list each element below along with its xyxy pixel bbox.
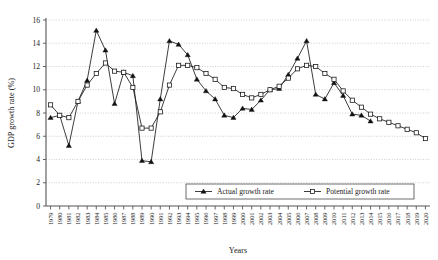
x-tick-label: 1981: [65, 213, 72, 226]
data-point-potential: [48, 103, 52, 107]
data-point-potential: [314, 64, 318, 68]
x-tick-label: 1982: [74, 213, 81, 226]
x-tick-label: 1998: [221, 213, 228, 226]
y-tick-label: 0: [36, 202, 40, 211]
data-point-potential: [213, 77, 217, 81]
data-point-actual: [167, 38, 172, 42]
data-point-potential: [277, 84, 281, 88]
series-line-potential: [51, 63, 426, 139]
y-tick-label: 12: [32, 62, 40, 71]
x-tick-label: 1999: [230, 213, 237, 226]
legend-marker-potential: [310, 189, 314, 193]
y-axis-title: GDP growth rate (%): [7, 78, 16, 148]
series-line-actual: [51, 30, 371, 161]
data-point-potential: [67, 116, 71, 120]
data-point-potential: [286, 76, 290, 80]
data-point-potential: [396, 124, 400, 128]
data-point-potential: [85, 83, 89, 87]
data-point-potential: [350, 98, 354, 102]
data-point-actual: [240, 106, 245, 110]
x-tick-label: 2010: [330, 213, 337, 226]
data-point-actual: [304, 38, 309, 42]
x-tick-label: 1988: [129, 213, 136, 226]
data-point-potential: [405, 127, 409, 131]
x-axis-title: Years: [229, 246, 247, 255]
data-point-actual: [94, 28, 99, 32]
x-tick-label: 1997: [212, 213, 219, 226]
x-tick-label: 2001: [248, 213, 255, 226]
data-point-potential: [158, 110, 162, 114]
x-tick-label: 1985: [102, 213, 109, 226]
data-point-actual: [194, 77, 199, 81]
data-point-potential: [94, 71, 98, 75]
y-tick-label: 2: [36, 178, 40, 187]
data-point-potential: [304, 63, 308, 67]
data-point-actual: [158, 97, 163, 101]
x-tick-label: 1980: [56, 213, 63, 226]
data-point-potential: [186, 63, 190, 67]
data-point-potential: [268, 88, 272, 92]
y-tick-label: 16: [32, 16, 40, 25]
data-point-actual: [313, 92, 318, 96]
data-point-potential: [131, 85, 135, 89]
y-tick-label: 8: [36, 109, 40, 118]
x-tick-label: 2020: [422, 213, 429, 226]
data-point-potential: [76, 99, 80, 103]
data-point-potential: [140, 126, 144, 130]
data-point-potential: [204, 71, 208, 75]
x-tick-label: 2008: [312, 213, 319, 226]
data-point-potential: [240, 92, 244, 96]
data-point-potential: [122, 70, 126, 74]
data-point-potential: [250, 96, 254, 100]
x-tick-label: 1984: [93, 212, 100, 225]
x-tick-label: 1991: [157, 213, 164, 226]
data-point-potential: [167, 83, 171, 87]
x-tick-label: 2009: [321, 213, 328, 226]
data-point-actual: [368, 119, 373, 123]
data-point-potential: [58, 113, 62, 117]
data-point-potential: [176, 63, 180, 67]
data-point-potential: [222, 85, 226, 89]
data-point-potential: [368, 112, 372, 116]
data-point-actual: [322, 97, 327, 101]
x-tick-label: 2018: [404, 213, 411, 226]
gdp-growth-chart: 0246810121416GDP growth rate (%)19791980…: [0, 0, 438, 260]
x-tick-label: 2016: [385, 213, 392, 226]
x-tick-label: 2005: [285, 213, 292, 226]
data-point-actual: [112, 101, 117, 105]
x-tick-label: 2014: [367, 212, 374, 225]
x-tick-label: 2000: [239, 213, 246, 226]
data-point-actual: [222, 113, 227, 117]
x-tick-label: 2011: [340, 213, 347, 225]
x-tick-label: 1993: [175, 213, 182, 226]
data-point-potential: [387, 120, 391, 124]
data-point-potential: [423, 136, 427, 140]
data-point-actual: [66, 143, 71, 147]
data-point-potential: [295, 67, 299, 71]
x-tick-label: 1983: [84, 213, 91, 226]
x-tick-label: 1990: [148, 213, 155, 226]
x-tick-label: 2006: [294, 213, 301, 226]
legend-label-actual: Actual growth rate: [217, 187, 275, 196]
data-point-potential: [414, 131, 418, 135]
data-point-actual: [103, 48, 108, 52]
x-tick-label: 2003: [266, 213, 273, 226]
data-point-actual: [350, 112, 355, 116]
x-tick-label: 2004: [276, 212, 283, 225]
y-tick-label: 4: [36, 155, 40, 164]
data-point-actual: [139, 158, 144, 162]
x-tick-label: 2015: [376, 213, 383, 226]
x-tick-label: 2012: [349, 213, 356, 226]
x-tick-label: 1996: [202, 213, 209, 226]
data-point-potential: [112, 69, 116, 73]
x-tick-label: 1992: [166, 213, 173, 226]
x-tick-label: 1989: [138, 213, 145, 226]
data-point-potential: [359, 105, 363, 109]
data-point-potential: [341, 89, 345, 93]
chart-canvas: 0246810121416GDP growth rate (%)19791980…: [0, 0, 438, 260]
data-point-potential: [323, 71, 327, 75]
legend-label-potential: Potential growth rate: [326, 187, 390, 196]
x-tick-label: 2002: [257, 213, 264, 226]
x-tick-label: 1995: [193, 213, 200, 226]
x-tick-label: 2017: [394, 213, 401, 226]
